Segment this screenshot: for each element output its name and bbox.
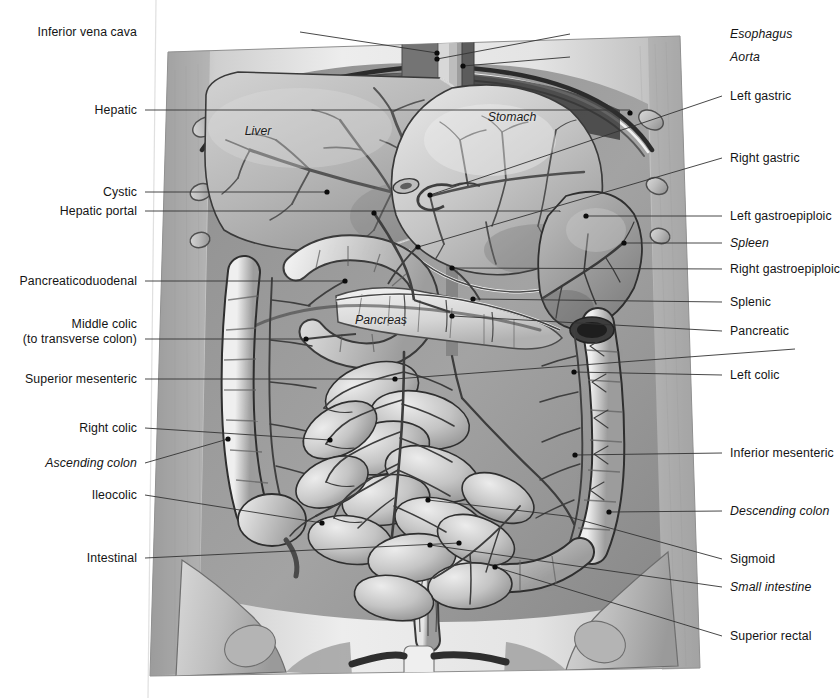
organ-label-stomach: Stomach xyxy=(488,110,537,124)
label-text-inferior-mesenteric: Inferior mesenteric xyxy=(730,446,834,460)
label-esophagus: Esophagus xyxy=(730,27,792,41)
label-text-right-colic: Right colic xyxy=(79,421,137,435)
label-left-gastroepiploic: Left gastroepiploic xyxy=(730,209,832,223)
callout-dot-right-gastroepiploic xyxy=(449,265,454,270)
callout-dot-superior-rectal xyxy=(492,564,497,569)
callout-dot-pancreatic xyxy=(449,313,454,318)
label-ascending-colon: Ascending colon xyxy=(45,456,137,470)
label-text-ileocolic: Ileocolic xyxy=(92,488,137,502)
callout-dot-middle-colic xyxy=(303,336,308,341)
leader-line-right-gastroepiploic xyxy=(452,268,722,269)
callout-dot-sigmoid xyxy=(425,497,430,502)
leader-line-hepatic xyxy=(145,110,630,113)
label-text-middle-colic: Middle colic xyxy=(72,317,137,331)
label-small-intestine: Small intestine xyxy=(730,580,811,594)
label-intestinal: Intestinal xyxy=(87,551,137,565)
organ-label-pancreas: Pancreas xyxy=(355,313,407,327)
callout-dot-ileocolic xyxy=(319,520,324,525)
leader-line-inferior-vena-cava xyxy=(300,32,437,53)
label-text-left-colic: Left colic xyxy=(730,368,780,382)
leader-line-esophagus xyxy=(437,34,570,59)
label-inferior-mesenteric: Inferior mesenteric xyxy=(730,446,834,460)
leader-line-small-intestine xyxy=(430,545,722,587)
leader-line-aorta xyxy=(463,57,570,66)
callout-dot-small-intestine xyxy=(427,542,432,547)
leader-line-ascending-colon xyxy=(145,439,228,463)
label-text-spleen: Spleen xyxy=(730,236,769,250)
label-text-pancreatic: Pancreatic xyxy=(730,324,789,338)
label-text-left-gastroepiploic: Left gastroepiploic xyxy=(730,209,832,223)
callout-dot-hepatic-portal xyxy=(371,210,376,215)
leader-line-left-colic xyxy=(574,372,722,375)
leader-line-intestinal xyxy=(145,543,459,558)
label-text-splenic: Splenic xyxy=(730,295,771,309)
callout-dot-esophagus xyxy=(434,56,439,61)
label-superior-mesenteric: Superior mesenteric xyxy=(25,372,137,386)
label-text-intestinal: Intestinal xyxy=(87,551,137,565)
label-inferior-vena-cava: Inferior vena cava xyxy=(37,25,137,39)
label-text-right-gastroepiploic: Right gastroepiploic xyxy=(730,262,840,276)
callout-dot-spleen xyxy=(621,240,626,245)
callout-dot-hepatic xyxy=(627,110,632,115)
label-aorta: Aorta xyxy=(730,50,760,64)
label-subtext-middle-colic: (to transverse colon) xyxy=(23,332,137,346)
leader-line-inferior-mesenteric xyxy=(575,453,722,455)
label-right-colic: Right colic xyxy=(79,421,137,435)
label-left-colic: Left colic xyxy=(730,368,780,382)
label-text-sigmoid: Sigmoid xyxy=(730,552,775,566)
label-pancreaticoduodenal: Pancreaticoduodenal xyxy=(20,274,137,288)
label-text-descending-colon: Descending colon xyxy=(730,504,829,518)
leader-line-superior-rectal xyxy=(495,567,722,636)
label-descending-colon: Descending colon xyxy=(730,504,829,518)
label-text-aorta: Aorta xyxy=(730,50,760,64)
label-pancreatic: Pancreatic xyxy=(730,324,789,338)
callout-dot-left-colic xyxy=(571,369,576,374)
label-text-left-gastric: Left gastric xyxy=(730,89,791,103)
leader-line-sigmoid xyxy=(428,500,722,559)
label-superior-rectal: Superior rectal xyxy=(730,629,811,643)
leader-line-splenic xyxy=(473,299,722,302)
leader-line-left-gastric xyxy=(430,96,722,195)
callout-dot-ascending-colon xyxy=(225,436,230,441)
label-text-superior-mesenteric: Superior mesenteric xyxy=(25,372,137,386)
organ-label-liver: Liver xyxy=(245,124,272,138)
callout-dot-pancreaticoduodenal xyxy=(342,278,347,283)
label-text-esophagus: Esophagus xyxy=(730,27,792,41)
label-text-inferior-vena-cava: Inferior vena cava xyxy=(37,25,137,39)
leader-line-descending-colon xyxy=(609,511,722,512)
callout-dot-intestinal xyxy=(456,540,461,545)
leader-line-pancreatic xyxy=(452,316,722,331)
label-text-ascending-colon: Ascending colon xyxy=(45,456,137,470)
callout-dot-inferior-vena-cava xyxy=(434,50,439,55)
label-hepatic-portal: Hepatic portal xyxy=(60,204,137,218)
label-hepatic: Hepatic xyxy=(95,103,137,117)
label-text-right-gastric: Right gastric xyxy=(730,151,800,165)
label-sigmoid: Sigmoid xyxy=(730,552,775,566)
callout-dot-right-gastric xyxy=(415,244,420,249)
label-text-small-intestine: Small intestine xyxy=(730,580,811,594)
leader-line-ileocolic xyxy=(145,495,322,523)
leader-line-hepatic-portal xyxy=(145,211,560,212)
label-middle-colic: Middle colic(to transverse colon) xyxy=(0,317,137,347)
label-text-pancreaticoduodenal: Pancreaticoduodenal xyxy=(20,274,137,288)
label-splenic: Splenic xyxy=(730,295,771,309)
label-ileocolic: Ileocolic xyxy=(92,488,137,502)
callout-dot-right-colic xyxy=(327,437,332,442)
callout-dot-splenic xyxy=(470,296,475,301)
label-left-gastric: Left gastric xyxy=(730,89,791,103)
label-text-superior-rectal: Superior rectal xyxy=(730,629,811,643)
callout-dot-aorta xyxy=(460,63,465,68)
leader-line-right-colic xyxy=(145,428,330,440)
callout-dot-cystic xyxy=(324,189,329,194)
label-text-hepatic-portal: Hepatic portal xyxy=(60,204,137,218)
callout-dot-left-gastric xyxy=(427,192,432,197)
callout-dot-superior-mesenteric xyxy=(392,376,397,381)
label-spleen: Spleen xyxy=(730,236,769,250)
callout-dot-inferior-mesenteric xyxy=(572,452,577,457)
callout-dot-left-gastroepiploic xyxy=(583,213,588,218)
label-right-gastric: Right gastric xyxy=(730,151,800,165)
label-right-gastroepiploic: Right gastroepiploic xyxy=(730,262,840,276)
label-cystic: Cystic xyxy=(103,185,137,199)
callout-dot-descending-colon xyxy=(606,509,611,514)
label-text-cystic: Cystic xyxy=(103,185,137,199)
